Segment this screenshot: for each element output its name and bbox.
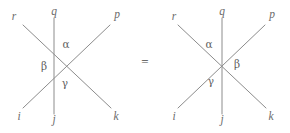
right-angle-alpha: α [205, 39, 212, 50]
left-label-q: q [51, 6, 57, 18]
right-angle-gamma: γ [208, 76, 214, 87]
right-angle-beta: β [234, 59, 240, 70]
left-angle-beta: β [41, 61, 47, 72]
left-label-r: r [12, 11, 16, 23]
right-label-j: j [220, 114, 223, 126]
left-label-p: p [114, 9, 120, 21]
right-label-q: q [219, 6, 225, 18]
left-label-i: i [17, 111, 20, 123]
right-label-p: p [269, 9, 275, 21]
left-label-j: j [52, 114, 55, 126]
right-label-i: i [172, 111, 175, 123]
yang-baxter-diagram-figure: r q p i j k α β γ = r q p i j k α β γ [0, 0, 290, 133]
left-angle-gamma: γ [62, 78, 68, 89]
right-label-r: r [172, 11, 176, 23]
equals-sign: = [141, 54, 148, 70]
left-angle-alpha: α [62, 39, 69, 50]
right-label-k: k [268, 111, 273, 123]
left-label-k: k [113, 111, 118, 123]
